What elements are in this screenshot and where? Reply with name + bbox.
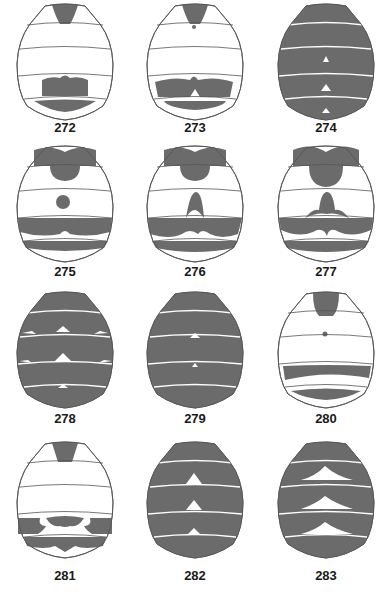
figure-label: 283 bbox=[261, 568, 391, 583]
figure-275 bbox=[0, 142, 130, 267]
figure-273 bbox=[130, 0, 260, 125]
abdomen-diagram-icon bbox=[0, 0, 130, 125]
abdomen-diagram-icon bbox=[0, 438, 130, 563]
figure-label: 279 bbox=[130, 411, 260, 426]
figure-281 bbox=[0, 438, 130, 563]
figure-276 bbox=[130, 142, 260, 267]
figure-279 bbox=[130, 288, 260, 413]
figure-283 bbox=[261, 438, 391, 563]
abdomen-diagram-icon bbox=[130, 0, 260, 125]
abdomen-diagram-icon bbox=[130, 438, 260, 563]
figure-label: 280 bbox=[261, 411, 391, 426]
figure-label: 281 bbox=[0, 568, 130, 583]
figure-label: 273 bbox=[130, 120, 260, 135]
figure-280 bbox=[261, 288, 391, 413]
figure-label: 278 bbox=[0, 411, 130, 426]
figure-label: 274 bbox=[261, 120, 391, 135]
figure-282 bbox=[130, 438, 260, 563]
abdomen-diagram-icon bbox=[130, 142, 260, 267]
abdomen-diagram-icon bbox=[261, 438, 391, 563]
abdomen-diagram-icon bbox=[261, 142, 391, 267]
figure-272 bbox=[0, 0, 130, 125]
figure-label: 275 bbox=[0, 264, 130, 279]
abdomen-diagram-icon bbox=[0, 288, 130, 413]
abdomen-diagram-icon bbox=[130, 288, 260, 413]
figure-278 bbox=[0, 288, 130, 413]
figure-277 bbox=[261, 142, 391, 267]
abdomen-diagram-icon bbox=[261, 288, 391, 413]
figure-label: 277 bbox=[261, 264, 391, 279]
figure-label: 276 bbox=[130, 264, 260, 279]
figure-274 bbox=[261, 0, 391, 125]
figure-label: 272 bbox=[0, 120, 130, 135]
abdomen-diagram-icon bbox=[261, 0, 391, 125]
abdomen-diagram-icon bbox=[0, 142, 130, 267]
figure-label: 282 bbox=[130, 568, 260, 583]
